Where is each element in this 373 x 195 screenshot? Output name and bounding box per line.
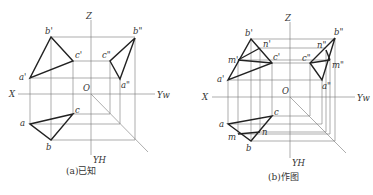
point-label: b" bbox=[334, 27, 343, 37]
axis-label-yw: Yw bbox=[157, 90, 171, 100]
point-label: n' bbox=[263, 39, 271, 49]
point-label: c bbox=[274, 107, 279, 117]
figure-caption: (a)已知 bbox=[66, 165, 96, 176]
point-label: a" bbox=[322, 81, 331, 91]
side-view-triangle bbox=[110, 38, 135, 79]
axis-label-x: X bbox=[8, 89, 16, 99]
point-label: a' bbox=[217, 74, 224, 84]
point-label: b' bbox=[245, 28, 253, 38]
point-label: a bbox=[20, 118, 25, 128]
point-label: m" bbox=[332, 60, 344, 70]
point-label: c' bbox=[75, 50, 82, 60]
axis-label-z: Z bbox=[284, 13, 292, 23]
point-label: b' bbox=[45, 26, 53, 36]
axis-label-x: X bbox=[201, 92, 209, 102]
point-label: a bbox=[219, 119, 224, 129]
mc-front-line bbox=[238, 60, 272, 63]
figure-caption: (b)作图 bbox=[268, 171, 299, 182]
point-label: c" bbox=[102, 50, 111, 60]
figure-b: Z X O Yw YH b' n' m' c' a' b" n" c" m" a… bbox=[201, 13, 371, 182]
45-degree-line bbox=[91, 94, 148, 152]
axis-label-z: Z bbox=[85, 11, 93, 21]
point-label: b bbox=[246, 143, 251, 153]
axis-label-yh: YH bbox=[93, 155, 107, 165]
point-label: c" bbox=[302, 53, 311, 63]
point-label: m' bbox=[228, 55, 238, 65]
axis-label-yh: YH bbox=[292, 158, 306, 168]
point-label: b" bbox=[133, 26, 142, 36]
origin-label: O bbox=[83, 83, 90, 93]
figure-a: Z X O Yw YH b' c' a' b" c" a" a c b (a)已… bbox=[8, 11, 171, 176]
point-label: n bbox=[262, 127, 267, 137]
projection-diagram: Z X O Yw YH b' c' a' b" c" a" a c b (a)已… bbox=[0, 0, 373, 195]
45-degree-line bbox=[290, 97, 346, 153]
point-label: c' bbox=[273, 52, 280, 62]
origin-label: O bbox=[282, 86, 289, 96]
point-label: m bbox=[228, 132, 236, 142]
front-view-triangle bbox=[30, 37, 73, 78]
point-label: n" bbox=[317, 40, 326, 50]
top-view-triangle bbox=[30, 114, 73, 140]
point-label: b bbox=[46, 142, 51, 152]
point-label: c bbox=[75, 105, 80, 115]
mn-front-line bbox=[238, 48, 260, 60]
axis-label-yw: Yw bbox=[357, 93, 371, 103]
point-label: a' bbox=[19, 72, 26, 82]
point-label: a" bbox=[121, 80, 130, 90]
